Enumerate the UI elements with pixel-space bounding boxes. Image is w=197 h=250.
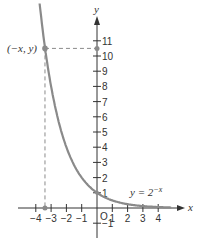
y-tick-label: 7 [102, 97, 108, 108]
x-tick-label: 2 [125, 213, 131, 224]
point-label: (−x, y) [7, 42, 37, 55]
y-axis-marker [95, 46, 100, 51]
y-tick-label: 6 [102, 112, 108, 123]
x-tick-label: −1 [76, 213, 88, 224]
y-tick-label: 11 [102, 36, 113, 47]
x-axis-label: x [187, 201, 193, 213]
x-tick-label: 3 [140, 213, 146, 224]
y-tick-label: 2 [102, 173, 108, 184]
y-tick-label: 8 [102, 81, 108, 92]
point-marker [42, 46, 48, 52]
y-tick-label: 10 [102, 51, 114, 62]
curve-label-exponent: −x [153, 185, 162, 194]
x-tick-label: 4 [155, 213, 161, 224]
x-tick-label: −2 [61, 213, 73, 224]
x-tick-label: −3 [45, 213, 57, 224]
y-tick-label: 9 [102, 66, 108, 77]
x-axis-marker [42, 206, 47, 211]
y-tick-label: 3 [102, 157, 108, 168]
exponential-graph: xy−4−3−2−11234−11234567891011O(−x, y)y =… [0, 0, 197, 250]
x-tick-label: −4 [30, 213, 42, 224]
y-tick-label: 4 [102, 142, 108, 153]
y-axis-arrow-icon [94, 16, 100, 25]
curve-label: y = 2−x [129, 185, 163, 198]
y-axis-label: y [93, 3, 99, 15]
y-tick-label: 5 [102, 127, 108, 138]
x-axis-arrow-icon [177, 205, 185, 211]
origin-label: O [100, 211, 108, 222]
y-intercept-marker [95, 191, 99, 195]
